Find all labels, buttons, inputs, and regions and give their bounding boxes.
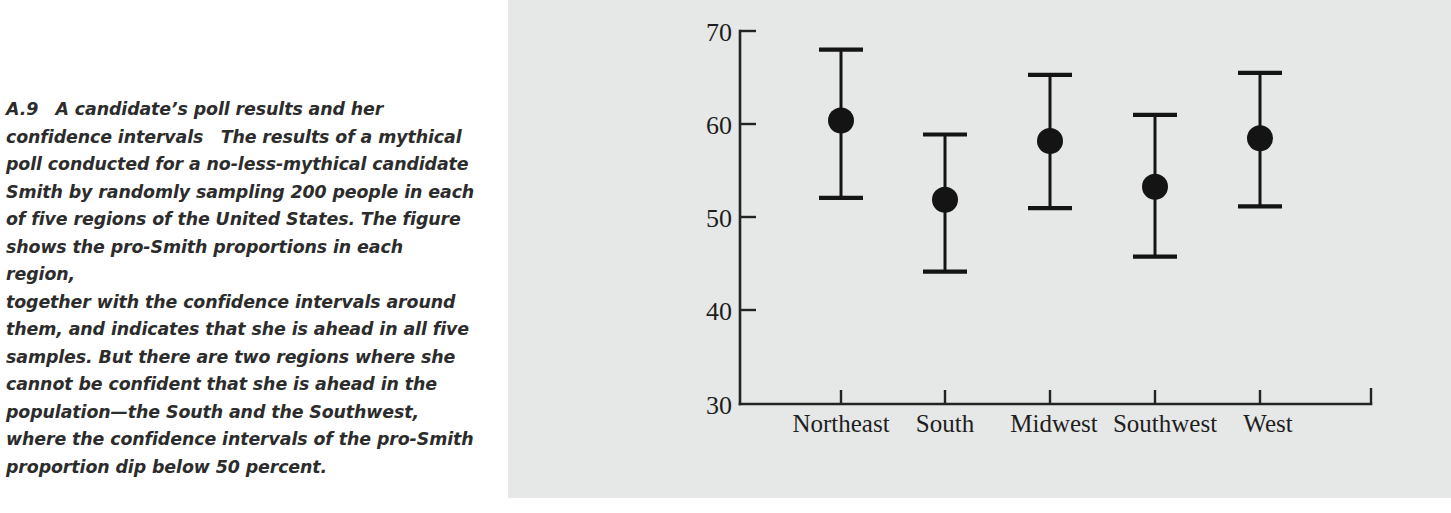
x-label-west: West xyxy=(1243,410,1292,437)
x-axis-category-labels: Northeast South Midwest Southwest West xyxy=(792,410,1292,437)
data-point-midwest xyxy=(1037,128,1063,154)
data-point-south xyxy=(932,187,958,213)
figure-caption-block: A.9 A candidate’s poll results and her c… xyxy=(6,96,476,481)
figure-panel: 70 60 50 40 30 Northeast South Midwest S… xyxy=(508,0,1451,498)
y-tick-label-30: 30 xyxy=(706,391,732,420)
data-point-west xyxy=(1247,125,1273,151)
y-axis-tick-labels: 70 60 50 40 30 xyxy=(706,18,732,420)
x-label-midwest: Midwest xyxy=(1010,410,1098,437)
chart-data-marks xyxy=(819,50,1282,272)
figure-caption-text: A.9 A candidate’s poll results and her c… xyxy=(6,96,476,481)
x-label-south: South xyxy=(916,410,975,437)
y-tick-label-60: 60 xyxy=(706,111,732,140)
data-group-west xyxy=(1238,73,1282,206)
x-label-southwest: Southwest xyxy=(1113,410,1217,437)
poll-confidence-interval-chart: 70 60 50 40 30 Northeast South Midwest S… xyxy=(508,0,1451,498)
data-group-southwest xyxy=(1133,115,1177,257)
y-tick-label-40: 40 xyxy=(706,297,732,326)
x-axis-ticks xyxy=(841,390,1260,404)
data-point-southwest xyxy=(1142,174,1168,200)
data-group-midwest xyxy=(1028,75,1072,208)
y-tick-label-50: 50 xyxy=(706,204,732,233)
data-group-south xyxy=(923,135,967,272)
x-label-northeast: Northeast xyxy=(792,410,889,437)
y-tick-label-70: 70 xyxy=(706,18,732,47)
y-axis-ticks xyxy=(740,124,756,310)
chart-axes xyxy=(740,31,1371,404)
data-point-northeast xyxy=(828,108,854,134)
data-group-northeast xyxy=(819,50,863,198)
